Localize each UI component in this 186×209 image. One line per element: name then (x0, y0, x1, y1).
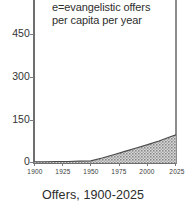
x-tick-mark (34, 163, 35, 166)
x-tick-mark (119, 163, 120, 166)
x-tick-label-2025: 2025 (169, 168, 184, 176)
chart-caption: Offers, 1900-2025 (0, 188, 186, 203)
x-tick-mark (62, 163, 63, 166)
x-tick-mark (175, 163, 176, 166)
y-tick-label-300: 300 (12, 71, 30, 82)
y-tick-label-150: 150 (12, 114, 30, 125)
x-tick-label-1925: 1925 (55, 168, 70, 176)
annotation-line-2: per capita per year (52, 14, 184, 27)
y-tick-label-0: 0 (24, 156, 30, 167)
y-tick-label-450: 450 (12, 28, 30, 39)
x-tick-label-1900: 1900 (27, 168, 42, 176)
x-tick-label-1950: 1950 (83, 168, 98, 176)
x-tick-label-1975: 1975 (111, 168, 126, 176)
chart-figure: 450 300 150 0 1900 1925 1950 1975 2000 2… (0, 0, 186, 209)
x-tick-label-2000: 2000 (139, 168, 154, 176)
chart-annotation: e=evangelistic offers per capita per yea… (52, 1, 184, 26)
annotation-line-1: e=evangelistic offers (52, 1, 184, 14)
x-tick-mark (147, 163, 148, 166)
x-tick-mark (90, 163, 91, 166)
